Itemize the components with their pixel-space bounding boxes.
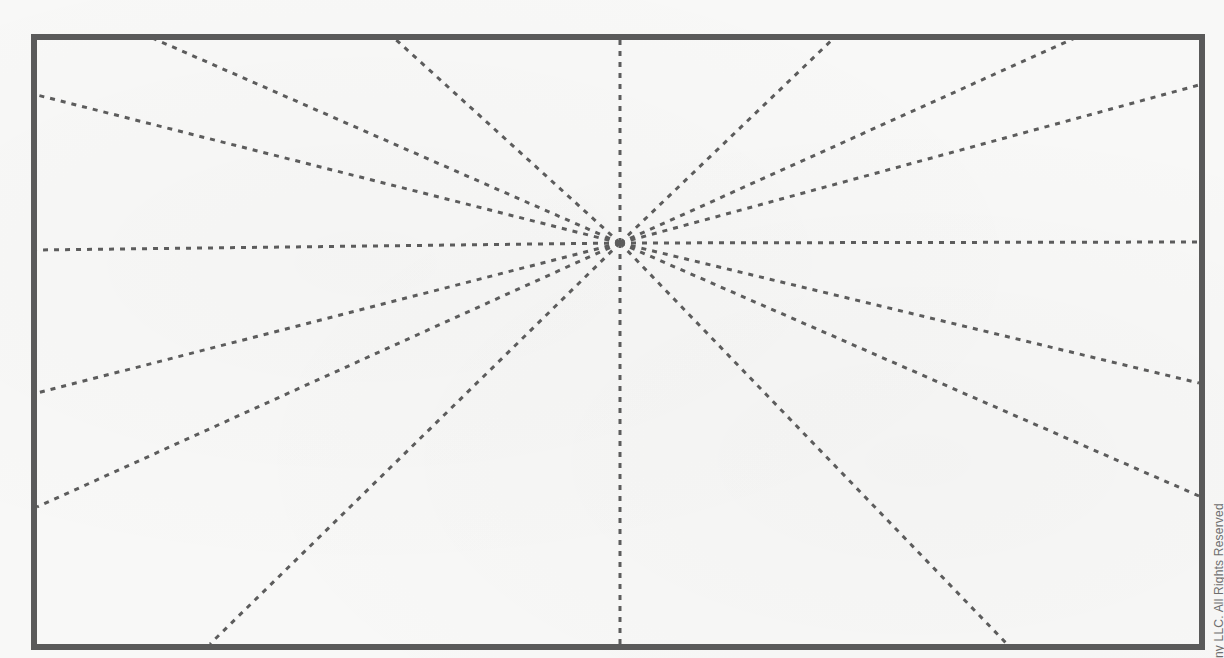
perspective-guide-line-right	[620, 243, 1199, 496]
copyright-notice: ny LLC. All Rights Reserved	[1212, 503, 1224, 658]
perspective-guide-line-top	[393, 37, 620, 243]
perspective-guide-line-bottom	[620, 243, 1007, 644]
perspective-guide-line-top	[620, 37, 835, 243]
perspective-guide-line-left	[37, 95, 620, 243]
perspective-guide-line-left	[37, 243, 620, 250]
guide-lines-group	[37, 37, 1199, 644]
perspective-guide-line-right	[620, 243, 1199, 383]
perspective-worksheet: ny LLC. All Rights Reserved	[0, 0, 1224, 658]
perspective-guide-line-bottom	[210, 243, 620, 644]
perspective-guide-line-left	[37, 243, 620, 393]
perspective-guide-line-right	[620, 85, 1199, 243]
perspective-guide-line-top	[150, 37, 620, 243]
perspective-guide-line-left	[37, 243, 620, 507]
perspective-guide-line-top	[620, 37, 1077, 243]
perspective-diagram	[0, 0, 1224, 658]
perspective-guide-line-right	[620, 242, 1199, 243]
